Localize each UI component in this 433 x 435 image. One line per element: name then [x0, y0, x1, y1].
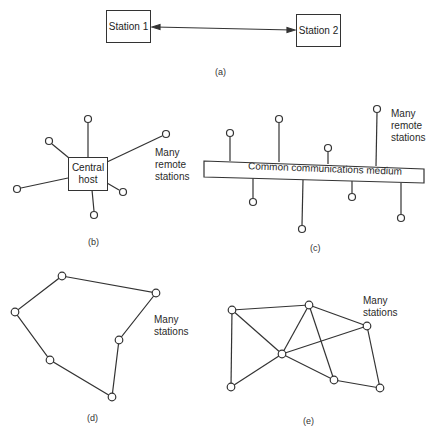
- central-host-line2: host: [79, 174, 98, 186]
- mesh-stations-label: Many stations: [363, 295, 397, 319]
- caption-c: (c): [310, 243, 321, 253]
- label-line: Many: [391, 108, 425, 120]
- label-line: Many: [155, 147, 189, 159]
- label-line: stations: [155, 171, 189, 183]
- caption-a: (a): [215, 67, 226, 77]
- label-line: remote: [155, 159, 189, 171]
- label-line: Many: [154, 314, 188, 326]
- station-2-label: Station 2: [299, 25, 338, 37]
- station-1-label: Station 1: [109, 21, 148, 33]
- star-remote-stations-label: Many remote stations: [155, 147, 189, 183]
- label-line: stations: [363, 307, 397, 319]
- label-line: remote: [391, 120, 425, 132]
- central-host-line1: Central: [72, 162, 104, 174]
- bus-remote-stations-label: Many remote stations: [391, 108, 425, 144]
- station-2-box: Station 2: [296, 14, 341, 47]
- caption-b: (b): [88, 237, 99, 247]
- central-host-box: Central host: [68, 157, 108, 191]
- station-1-box: Station 1: [106, 10, 151, 43]
- caption-d: (d): [87, 413, 98, 423]
- caption-e: (e): [303, 416, 314, 426]
- label-line: stations: [154, 326, 188, 338]
- label-line: stations: [391, 132, 425, 144]
- ring-stations-label: Many stations: [154, 314, 188, 338]
- label-line: Many: [363, 295, 397, 307]
- topology-lines: [0, 0, 433, 435]
